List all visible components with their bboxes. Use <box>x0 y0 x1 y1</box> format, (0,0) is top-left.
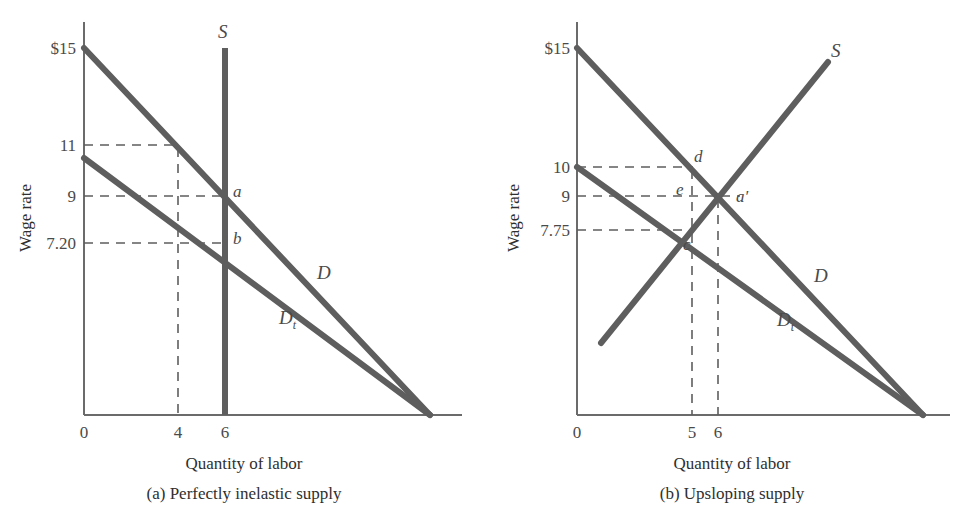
panel-b-plot <box>488 0 976 524</box>
x-tick-label-4: 4 <box>162 424 194 441</box>
y-axis-title: Wage rate <box>504 184 524 252</box>
x-tick-label-6: 6 <box>209 424 241 441</box>
demand-curve-d <box>84 48 430 415</box>
demand-curve-dt <box>577 167 923 415</box>
economics-figure: $15 11 9 7.20 0 4 6 S D Dt a b Wage rate… <box>0 0 976 524</box>
demand-tax-curve-label-sub: t <box>293 318 296 332</box>
demand-tax-curve-label-main: D <box>777 309 791 330</box>
y-axis-title: Wage rate <box>16 184 36 252</box>
point-label-b: b <box>233 230 242 247</box>
supply-curve-label: S <box>831 41 841 60</box>
y-tick-label-15: $15 <box>514 40 570 57</box>
demand-tax-curve-label: Dt <box>777 310 794 333</box>
panel-perfectly-inelastic-supply: $15 11 9 7.20 0 4 6 S D Dt a b Wage rate… <box>0 0 488 524</box>
supply-curve-s <box>601 62 828 343</box>
panel-upsloping-supply: $15 10 9 7.75 0 5 6 S D Dt d e a′ c Wage… <box>488 0 976 524</box>
demand-tax-curve-label-sub: t <box>791 320 794 334</box>
demand-tax-curve-label: Dt <box>279 308 296 331</box>
y-tick-label-15: $15 <box>24 40 76 57</box>
x-tick-label-0: 0 <box>561 424 593 441</box>
point-label-a: a <box>233 183 242 200</box>
point-label-e: e <box>676 181 684 198</box>
demand-curve-d <box>577 48 923 415</box>
x-axis-title: Quantity of labor <box>488 455 976 472</box>
demand-curve-dt <box>84 158 430 415</box>
point-label-d: d <box>694 148 703 165</box>
point-label-a-prime: a′ <box>736 188 748 205</box>
demand-curve-label: D <box>317 263 331 282</box>
panel-caption: (b) Upsloping supply <box>488 485 976 502</box>
demand-tax-curve-label-main: D <box>279 307 293 328</box>
demand-curve-label: D <box>814 266 828 285</box>
point-label-c: c <box>683 236 691 253</box>
supply-curve-label: S <box>218 22 228 41</box>
y-tick-label-11: 11 <box>24 137 76 154</box>
x-axis-title: Quantity of labor <box>0 455 488 472</box>
x-tick-label-6: 6 <box>702 424 734 441</box>
panel-a-plot <box>0 0 488 524</box>
x-tick-label-0: 0 <box>68 424 100 441</box>
panel-caption: (a) Perfectly inelastic supply <box>0 485 488 502</box>
y-tick-label-10: 10 <box>514 159 570 176</box>
